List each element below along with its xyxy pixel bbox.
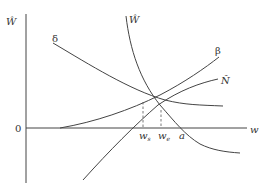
- delta-curve: [53, 43, 223, 106]
- a-label: a: [179, 130, 185, 141]
- beta-label: β: [215, 45, 221, 56]
- x-axis-label: w: [250, 124, 259, 135]
- delta-label: δ: [52, 33, 58, 44]
- w-e-label: we: [158, 130, 171, 142]
- w-hat-label: Ŵ: [129, 14, 140, 25]
- diagram-canvas: Ŵ 0 w δ β Ŵ N̂ ws we a: [0, 0, 269, 188]
- beta-curve: [60, 57, 219, 128]
- n-hat-curve: [83, 79, 218, 180]
- origin-label: 0: [15, 123, 21, 134]
- n-hat-label: N̂: [220, 75, 231, 86]
- y-axis-label: Ŵ: [6, 16, 17, 27]
- w-s-label: ws: [139, 130, 151, 142]
